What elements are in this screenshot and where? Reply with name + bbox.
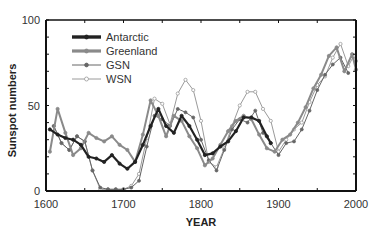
- data-point: [192, 89, 195, 92]
- data-point: [176, 107, 179, 110]
- legend-label: WSN: [106, 73, 132, 85]
- data-point: [285, 142, 288, 145]
- data-point: [273, 150, 276, 153]
- data-point: [269, 142, 272, 145]
- data-point: [265, 135, 268, 138]
- data-point: [265, 147, 268, 150]
- data-point: [192, 116, 195, 119]
- data-point: [281, 138, 284, 141]
- data-point: [246, 90, 249, 93]
- data-point: [64, 136, 67, 139]
- data-point: [293, 140, 296, 143]
- data-point: [196, 138, 199, 141]
- data-point: [331, 63, 334, 66]
- x-axis-title: YEAR: [186, 216, 217, 228]
- data-point: [180, 114, 183, 117]
- data-point: [316, 89, 319, 92]
- legend-item-wsn: WSN: [72, 73, 132, 85]
- legend-marker: [85, 63, 89, 67]
- data-point: [184, 111, 187, 114]
- data-point: [126, 148, 129, 151]
- data-point: [149, 99, 152, 102]
- data-point: [238, 104, 241, 107]
- series-antarctic: [48, 107, 272, 170]
- data-point: [99, 186, 102, 189]
- data-point: [258, 119, 261, 122]
- data-point: [126, 167, 129, 170]
- data-point: [103, 140, 106, 143]
- data-point: [145, 145, 148, 148]
- legend-marker: [85, 35, 89, 39]
- data-point: [234, 119, 237, 122]
- y-tick-label: 100: [22, 14, 40, 26]
- data-point: [200, 138, 203, 141]
- legend-item-greenland: Greenland: [72, 45, 157, 57]
- data-point: [234, 130, 237, 133]
- data-point: [95, 136, 98, 139]
- data-point: [304, 106, 307, 109]
- data-point: [347, 72, 350, 75]
- data-point: [56, 133, 59, 136]
- data-point: [331, 56, 334, 59]
- data-point: [76, 135, 79, 138]
- x-tick-label: 1700: [111, 198, 135, 210]
- legend-label: Greenland: [106, 45, 157, 57]
- data-point: [308, 109, 311, 112]
- data-point: [79, 143, 82, 146]
- data-point: [60, 142, 63, 145]
- data-point: [157, 107, 160, 110]
- data-point: [161, 102, 164, 105]
- data-point: [184, 78, 187, 81]
- legend-item-antarctic: Antarctic: [72, 31, 149, 43]
- data-point: [277, 154, 280, 157]
- data-point: [296, 121, 299, 124]
- data-point: [215, 169, 218, 172]
- data-point: [339, 42, 342, 45]
- data-point: [246, 121, 249, 124]
- data-point: [254, 109, 257, 112]
- legend-label: Antarctic: [106, 31, 149, 43]
- x-tick-label: 1900: [266, 198, 290, 210]
- data-point: [87, 155, 90, 158]
- data-point: [165, 124, 168, 127]
- data-point: [227, 130, 230, 133]
- data-point: [320, 73, 323, 76]
- data-point: [165, 135, 168, 138]
- data-point: [103, 160, 106, 163]
- data-point: [343, 70, 346, 73]
- data-point: [335, 46, 338, 49]
- data-point: [254, 90, 257, 93]
- legend-label: GSN: [106, 59, 130, 71]
- data-point: [172, 114, 175, 117]
- data-point: [153, 97, 156, 100]
- y-axis-title: Sunspot numbers: [6, 64, 18, 158]
- data-point: [91, 169, 94, 172]
- data-point: [48, 150, 51, 153]
- data-point: [227, 140, 230, 143]
- data-point: [157, 114, 160, 117]
- data-point: [118, 143, 121, 146]
- legend-marker: [85, 49, 89, 53]
- data-point: [141, 143, 144, 146]
- data-point: [95, 157, 98, 160]
- data-point: [211, 157, 214, 160]
- data-point: [203, 164, 206, 167]
- series-line: [54, 44, 356, 189]
- data-point: [87, 131, 90, 134]
- data-point: [250, 116, 253, 119]
- y-tick-label: 0: [34, 185, 40, 197]
- axes: 16001700180019002000050100YEARSunspot nu…: [6, 14, 368, 228]
- data-point: [324, 73, 327, 76]
- data-point: [261, 107, 264, 110]
- x-tick-label: 1800: [189, 198, 213, 210]
- x-tick-label: 1600: [34, 198, 58, 210]
- data-point: [312, 87, 315, 90]
- data-point: [211, 152, 214, 155]
- data-point: [219, 145, 222, 148]
- data-point: [56, 107, 59, 110]
- data-point: [172, 131, 175, 134]
- sunspot-chart: 16001700180019002000050100YEARSunspot nu…: [0, 0, 372, 237]
- data-point: [300, 128, 303, 131]
- data-point: [300, 121, 303, 124]
- data-point: [64, 131, 67, 134]
